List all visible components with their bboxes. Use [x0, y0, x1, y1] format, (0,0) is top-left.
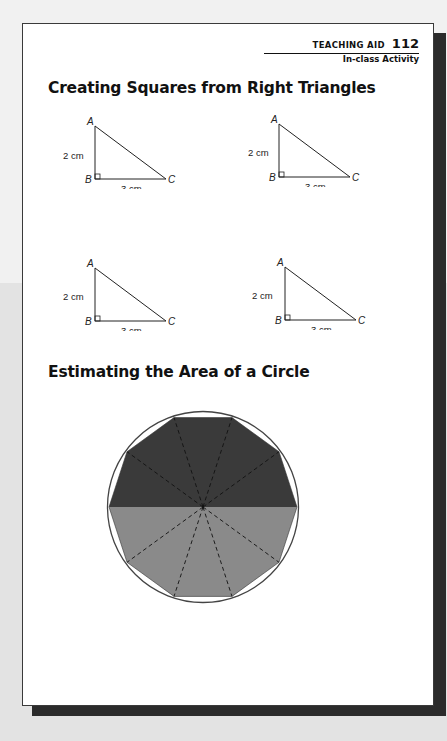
side-bc-label: 3 cm	[121, 183, 142, 189]
side-bc-label: 3 cm	[121, 325, 142, 331]
side-bc-label: 3 cm	[305, 181, 326, 187]
vertex-a-label: A	[270, 114, 278, 125]
side-ab-label: 2 cm	[63, 291, 84, 302]
vertex-c-label: C	[358, 315, 366, 326]
section-title-squares: Creating Squares from Right Triangles	[48, 79, 376, 97]
vertex-b-label: B	[269, 172, 276, 183]
vertex-b-label: B	[85, 316, 92, 327]
right-triangle-4: A B C 2 cm 3 cm	[244, 250, 374, 334]
right-triangle-2: A B C 2 cm 3 cm	[239, 107, 369, 191]
vertex-c-label: C	[168, 174, 176, 185]
side-bc-label: 3 cm	[311, 324, 332, 330]
right-triangle-1: A B C 2 cm 3 cm	[53, 109, 183, 193]
activity-subtitle: In-class Activity	[343, 54, 419, 64]
teaching-aid-header: TEACHING AID 112	[264, 33, 419, 54]
vertex-c-label: C	[168, 316, 176, 327]
worksheet-page: TEACHING AID 112 In-class Activity Creat…	[22, 23, 434, 706]
side-ab-label: 2 cm	[252, 290, 273, 301]
vertex-b-label: B	[275, 315, 282, 326]
vertex-a-label: A	[276, 257, 284, 268]
teaching-aid-label: TEACHING AID	[313, 40, 385, 50]
section-title-circle: Estimating the Area of a Circle	[48, 363, 310, 381]
vertex-a-label: A	[86, 258, 94, 269]
right-triangle-3: A B C 2 cm 3 cm	[57, 251, 187, 335]
vertex-b-label: B	[85, 174, 92, 185]
teaching-aid-number: 112	[392, 36, 419, 51]
vertex-a-label: A	[86, 116, 94, 127]
vertex-c-label: C	[352, 172, 360, 183]
side-ab-label: 2 cm	[248, 147, 269, 158]
decagon-lower-half	[109, 507, 297, 596]
decagon-upper-half	[109, 418, 297, 507]
circle-area-figure	[105, 409, 301, 609]
side-ab-label: 2 cm	[63, 150, 84, 161]
